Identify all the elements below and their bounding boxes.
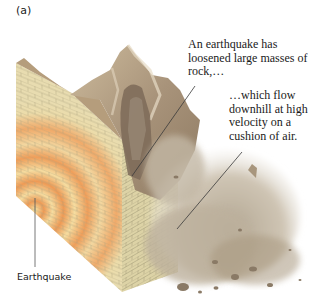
debris-cloud xyxy=(145,135,302,294)
earthquake-label: Earthquake xyxy=(17,271,71,282)
callout-loosened-rock: An earthquake has loosened large masses … xyxy=(188,38,313,79)
callout-flow-downhill: …which flow downhill at high velocity on… xyxy=(229,89,322,143)
